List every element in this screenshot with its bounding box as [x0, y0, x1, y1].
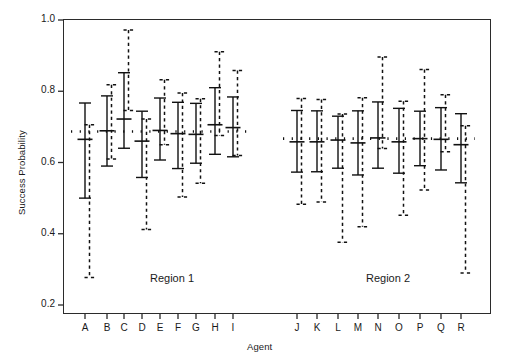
- error-bar-f: [171, 93, 188, 197]
- error-bar-g: [189, 99, 206, 183]
- error-bar-h: [208, 52, 225, 155]
- error-bar-m: [351, 98, 368, 227]
- chart-canvas: [0, 0, 511, 363]
- error-bar-o: [392, 101, 409, 215]
- error-bar-l: [331, 114, 348, 242]
- error-bar-q: [434, 95, 451, 170]
- error-bar-a: [78, 103, 95, 278]
- error-bar-group: [78, 30, 471, 278]
- chart-figure: Success Probability Agent 0.20.40.60.81.…: [0, 0, 511, 363]
- reference-lines: [71, 132, 475, 139]
- error-bar-c: [117, 30, 134, 148]
- axis-ticks: [58, 20, 461, 319]
- error-bar-r: [454, 114, 471, 273]
- error-bar-e: [153, 80, 170, 160]
- error-bar-p: [413, 70, 430, 190]
- error-bar-b: [100, 85, 117, 166]
- error-bar-d: [135, 111, 152, 229]
- error-bar-n: [371, 57, 388, 168]
- error-bar-j: [290, 98, 307, 204]
- error-bar-k: [310, 99, 327, 202]
- error-bar-i: [226, 71, 243, 157]
